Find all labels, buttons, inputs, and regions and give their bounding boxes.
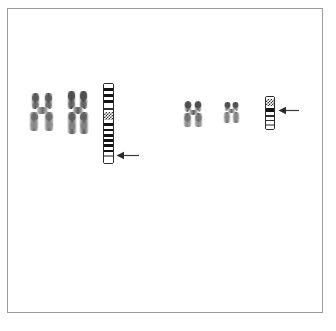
- ideogram-band-p13: [266, 99, 274, 107]
- right-chromosome-group: [0, 0, 336, 331]
- ideogram-band-q-ter: [266, 126, 274, 129]
- right-breakpoint-arrow: [278, 105, 300, 116]
- right-chromosome-2: [221, 99, 243, 126]
- right-ideogram: [265, 96, 275, 130]
- right-chromosome-1: [181, 98, 207, 130]
- chromosome-figure: Chromosome ideogram and metaphase compar…: [0, 0, 336, 331]
